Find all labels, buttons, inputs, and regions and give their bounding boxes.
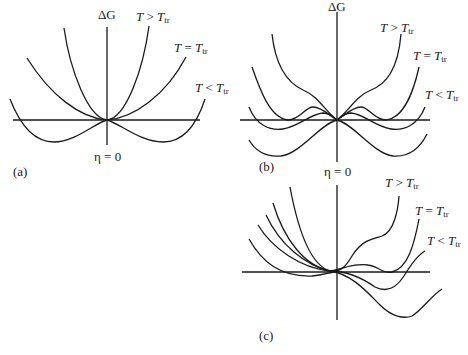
panel-b-curve-t-equal [252, 67, 419, 120]
panel-a-caption: (a) [13, 165, 27, 178]
panel-c-caption: (c) [259, 329, 273, 342]
panel-a-origin-label: η = 0 [94, 150, 121, 163]
panel-c-curve-3 [266, 215, 425, 289]
panel-c-label-t-above: T > Ttr [385, 176, 419, 191]
panel-b-label-t-equal: T = Ttr [413, 49, 447, 64]
panel-b-y-axis-label: ΔG [328, 0, 346, 13]
panel-a-y-axis-label: ΔG [98, 8, 116, 21]
panel-c-label-t-equal: T = Ttr [415, 204, 449, 219]
panel-c-label-t-below: T < Ttr [427, 234, 461, 249]
panel-a-label-t-below: T < Ttr [195, 81, 229, 96]
panel-b-caption: (b) [259, 160, 274, 173]
panel-b-curve-lowest [249, 120, 427, 156]
panel-a-label-t-above: T > Ttr [136, 10, 170, 25]
panel-b-origin-label: η = 0 [324, 165, 351, 178]
panel-c [242, 185, 442, 320]
panel-b-label-t-above: T > Ttr [380, 21, 414, 36]
panel-b-label-t-below: T < Ttr [425, 88, 459, 103]
panel-a-label-t-equal: T = Ttr [174, 41, 208, 56]
